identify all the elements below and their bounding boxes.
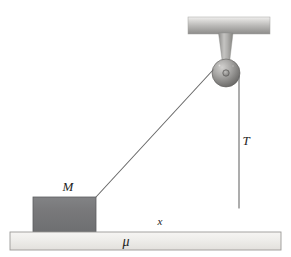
label-friction-coefficient-mu: μ xyxy=(121,234,129,249)
diagram-canvas: M x μ T xyxy=(0,0,291,257)
block-mass-m xyxy=(33,197,96,232)
rope-diagonal-segment xyxy=(96,70,213,197)
label-distance-x: x xyxy=(157,215,163,227)
physics-diagram-figure: M x μ T xyxy=(0,0,291,257)
label-tension-t: T xyxy=(242,133,250,148)
label-mass-m: M xyxy=(62,179,75,194)
ground-surface xyxy=(10,232,281,250)
pulley-wheel xyxy=(212,59,240,87)
ceiling-support-bar xyxy=(188,17,270,34)
